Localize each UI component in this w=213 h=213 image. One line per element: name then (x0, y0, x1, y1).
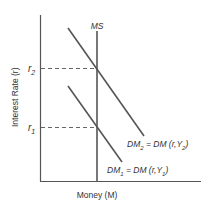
r2-tick-label: r2 (28, 63, 35, 76)
money-demand-curve-2 (68, 28, 144, 136)
dm2-label: DM2 = DM (r,Y2) (127, 139, 188, 151)
money-demand-curve-1 (68, 86, 122, 162)
ms-label: MS (91, 21, 104, 31)
r1-tick-label: r1 (28, 122, 35, 135)
money-market-diagram: r2 r1 Interest Rate (r) Money (M) MS DM2… (0, 0, 213, 213)
x-axis-label: Money (M) (77, 190, 118, 200)
dm1-label: DM1 = DM (r,Y1) (107, 165, 168, 177)
y-axis-label: Interest Rate (r) (10, 67, 20, 127)
